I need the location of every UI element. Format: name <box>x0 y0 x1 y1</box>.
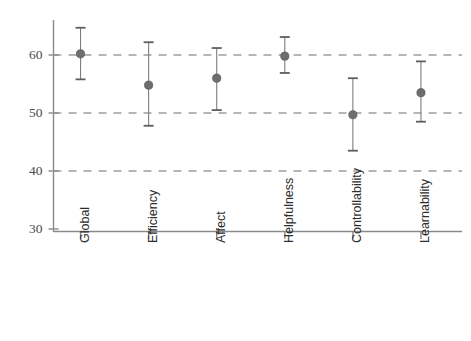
mean-marker <box>145 81 153 89</box>
x-tick-label-learnability: Learnability <box>418 178 432 243</box>
mean-marker <box>349 111 357 119</box>
x-tick-label-controllability: Controllability <box>350 167 364 243</box>
y-tick-label-30: 30 <box>29 221 43 236</box>
y-tick-label-50: 50 <box>29 105 43 120</box>
y-tick-label-40: 40 <box>29 163 43 178</box>
chart-container: 30405060 GlobalEfficiencyAffectHelpfulne… <box>0 0 471 341</box>
x-tick-label-efficiency: Efficiency <box>146 189 160 243</box>
x-tick-label-helpfulness: Helpfulness <box>282 178 296 243</box>
mean-marker <box>76 50 84 58</box>
error-bar-chart: 30405060 GlobalEfficiencyAffectHelpfulne… <box>0 0 471 341</box>
mean-marker <box>281 52 289 60</box>
mean-marker <box>213 74 221 82</box>
mean-marker <box>417 89 425 97</box>
x-tick-label-global: Global <box>78 207 92 243</box>
y-tick-label-60: 60 <box>29 47 43 62</box>
x-tick-label-affect: Affect <box>214 211 228 243</box>
